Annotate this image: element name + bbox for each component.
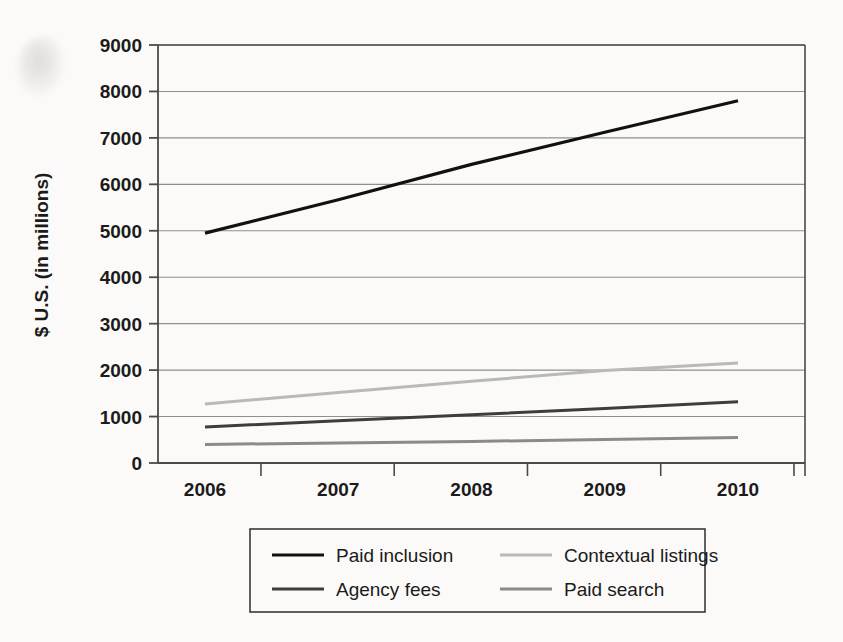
x-axis <box>261 463 805 476</box>
y-axis <box>149 45 158 463</box>
series-line <box>205 438 738 445</box>
series-lines <box>205 101 738 445</box>
y-axis-tick-labels: 0100020003000400050006000700080009000 <box>100 35 142 474</box>
legend-label: Paid search <box>564 579 664 600</box>
x-axis-tick-labels: 20062007200820092010 <box>184 479 759 500</box>
series-line <box>205 101 738 233</box>
y-axis-tick-label: 9000 <box>100 35 142 56</box>
y-axis-tick-label: 2000 <box>100 360 142 381</box>
y-axis-tick-label: 7000 <box>100 128 142 149</box>
y-axis-tick-label: 1000 <box>100 407 142 428</box>
line-chart: 0100020003000400050006000700080009000 $ … <box>0 0 843 642</box>
legend-label: Agency fees <box>336 579 441 600</box>
series-line <box>205 402 738 427</box>
x-axis-tick-label: 2006 <box>184 479 226 500</box>
y-axis-tick-label: 6000 <box>100 174 142 195</box>
chart-page: 0100020003000400050006000700080009000 $ … <box>0 0 843 642</box>
y-axis-title: $ U.S. (in millions) <box>31 173 52 338</box>
series-line <box>205 363 738 404</box>
x-axis-tick-label: 2007 <box>317 479 359 500</box>
x-axis-tick-label: 2009 <box>584 479 626 500</box>
y-axis-tick-label: 4000 <box>100 267 142 288</box>
x-axis-tick-label: 2010 <box>717 479 759 500</box>
legend-label: Paid inclusion <box>336 545 453 566</box>
y-axis-tick-label: 5000 <box>100 221 142 242</box>
legend-items: Paid inclusionContextual listingsAgency … <box>272 545 718 600</box>
y-axis-tick-label: 3000 <box>100 314 142 335</box>
x-axis-tick-label: 2008 <box>450 479 492 500</box>
y-axis-tick-label: 0 <box>131 453 142 474</box>
y-axis-tick-label: 8000 <box>100 81 142 102</box>
legend-label: Contextual listings <box>564 545 718 566</box>
